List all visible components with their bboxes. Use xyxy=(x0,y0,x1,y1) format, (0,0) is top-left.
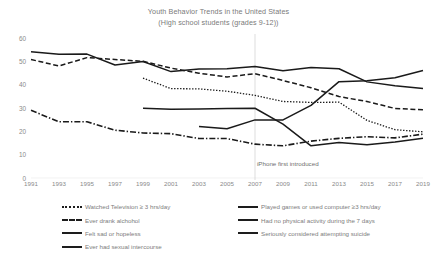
x-axis-tick: 2011 xyxy=(296,180,326,187)
x-axis-tick: 1999 xyxy=(128,180,158,187)
x-axis-tick: 1997 xyxy=(100,180,130,187)
legend-item-label: Watched Television ≥ 3 hrs/day xyxy=(85,203,170,210)
y-axis-tick: 20 xyxy=(4,128,26,135)
x-axis-tick: 2019 xyxy=(408,180,437,187)
chart-title-line-2: (High school students (grades 9-12)) xyxy=(0,17,437,28)
series-line-1 xyxy=(31,52,423,89)
x-axis-tick: 1991 xyxy=(16,180,46,187)
chart-title: Youth Behavior Trends in the United Stat… xyxy=(0,6,437,28)
series-line-2 xyxy=(31,58,423,110)
x-axis-tick: 2003 xyxy=(184,180,214,187)
y-axis-tick: 40 xyxy=(4,81,26,88)
legend-swatch-icon xyxy=(62,232,82,234)
legend-item-label: Played games or used computer ≥3 hrs/day xyxy=(261,203,381,210)
x-axis-tick: 1995 xyxy=(72,180,102,187)
x-axis-tick: 2009 xyxy=(268,180,298,187)
legend-item[interactable]: Ever drank alchohol xyxy=(62,213,170,226)
legend-column-left: Watched Television ≥ 3 hrs/dayEver drank… xyxy=(62,200,170,254)
chart-container: Youth Behavior Trends in the United Stat… xyxy=(0,0,437,266)
y-axis-tick: 10 xyxy=(4,151,26,158)
y-axis-tick: 30 xyxy=(4,105,26,112)
legend-swatch-icon xyxy=(238,206,258,208)
legend-item[interactable]: Felt sad or hopeless xyxy=(62,227,170,240)
legend-swatch-icon xyxy=(238,232,258,234)
legend-item[interactable]: Played games or used computer ≥3 hrs/day xyxy=(238,200,381,213)
legend-item[interactable]: Seriously considered attempting suicide xyxy=(238,227,381,240)
y-axis-tick: 60 xyxy=(4,35,26,42)
legend-item-label: Had no physical activity during the 7 da… xyxy=(261,217,375,224)
plot-svg xyxy=(31,38,423,178)
legend-item[interactable]: Had no physical activity during the 7 da… xyxy=(238,213,381,226)
series-line-4 xyxy=(143,108,423,146)
legend-item-label: Felt sad or hopeless xyxy=(85,230,141,237)
legend-column-right: Played games or used computer ≥3 hrs/day… xyxy=(238,200,381,240)
x-axis-tick: 2007 xyxy=(240,180,270,187)
legend-swatch-icon xyxy=(62,246,82,248)
legend-item[interactable]: Ever had sexual intercourse xyxy=(62,240,170,253)
legend-swatch-icon xyxy=(62,219,82,221)
legend-item-label: Ever drank alchohol xyxy=(85,217,140,224)
x-axis-tick: 2017 xyxy=(380,180,410,187)
x-axis-tick: 1993 xyxy=(44,180,74,187)
plot-area xyxy=(31,38,423,178)
series-line-5 xyxy=(199,70,423,128)
legend-item[interactable]: Watched Television ≥ 3 hrs/day xyxy=(62,200,170,213)
x-axis-tick: 2005 xyxy=(212,180,242,187)
legend-swatch-icon xyxy=(62,206,82,208)
y-axis-tick: 50 xyxy=(4,58,26,65)
legend-item-label: Seriously considered attempting suicide xyxy=(261,230,370,237)
chart-title-line-1: Youth Behavior Trends in the United Stat… xyxy=(0,6,437,17)
legend-swatch-icon xyxy=(238,219,258,221)
chart-legend: Watched Television ≥ 3 hrs/dayEver drank… xyxy=(0,200,437,262)
legend-item-label: Ever had sexual intercourse xyxy=(85,243,162,250)
x-axis-tick: 2013 xyxy=(324,180,354,187)
x-axis-tick: 2015 xyxy=(352,180,382,187)
x-axis-tick: 2001 xyxy=(156,180,186,187)
